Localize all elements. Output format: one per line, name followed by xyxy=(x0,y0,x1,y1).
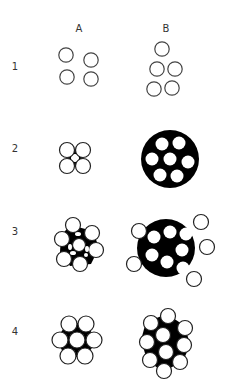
figure-1b xyxy=(147,42,182,96)
figure-3b xyxy=(127,215,215,287)
figure-2a xyxy=(60,143,91,174)
row-label-4: 4 xyxy=(12,327,18,337)
figure-3a xyxy=(55,218,104,272)
figure-canvas xyxy=(0,0,227,391)
column-label-b: B xyxy=(163,24,170,34)
figure-1a xyxy=(59,48,98,86)
figure-2b xyxy=(141,130,199,188)
row-label-1: 1 xyxy=(12,62,18,72)
figure-4b xyxy=(140,309,193,379)
row-label-3: 3 xyxy=(12,227,18,237)
figure-4a xyxy=(52,316,102,364)
row-label-2: 2 xyxy=(12,144,18,154)
column-label-a: A xyxy=(76,24,83,34)
